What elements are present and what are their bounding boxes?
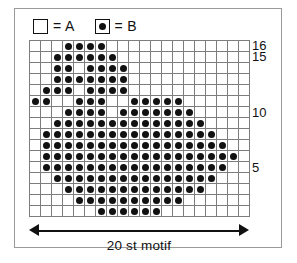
chart-cell-b [118,151,129,162]
chart-cell-b [195,184,206,195]
chart-cell-a [30,63,41,74]
chart-cell-a [206,107,217,118]
dot-icon [76,43,83,50]
chart-cell-a [63,96,74,107]
chart-cell-a [30,151,41,162]
chart-cell-b [173,129,184,140]
chart-cell-a [228,206,239,217]
dot-icon [175,131,182,138]
chart-row [30,173,250,184]
dot-icon [65,109,72,116]
chart-cell-b [52,63,63,74]
dot-icon [120,120,127,127]
chart-cell-a [184,195,195,206]
chart-cell-a [195,206,206,217]
dot-icon [98,87,105,94]
chart-cell-a [228,96,239,107]
chart-cell-b [41,96,52,107]
chart-cell-a [140,63,151,74]
chart-cell-b [63,41,74,52]
dot-icon [43,164,50,171]
chart-cell-b [30,96,41,107]
chart-cell-a [52,195,63,206]
dot-icon [131,109,138,116]
row-number-15: 15 [252,51,266,62]
chart-cell-b [63,162,74,173]
chart-cell-a [63,206,74,217]
chart-cell-a [151,41,162,52]
chart-cell-b [96,85,107,96]
dot-icon [153,164,160,171]
dot-icon [98,186,105,193]
dot-icon [120,186,127,193]
chart-cell-a [85,206,96,217]
chart-cell-a [30,140,41,151]
chart-cell-b [52,173,63,184]
chart-cell-b [118,195,129,206]
chart-cell-b [96,118,107,129]
chart-cell-a [228,162,239,173]
chart-cell-b [129,184,140,195]
chart-cell-b [140,140,151,151]
dot-icon [76,197,83,204]
dot-icon [76,142,83,149]
dot-icon [76,131,83,138]
chart-cell-b [74,107,85,118]
dot-icon [153,142,160,149]
chart-cell-a [239,129,250,140]
dot-icon [43,142,50,149]
chart-cell-b [96,140,107,151]
chart-cell-a [162,74,173,85]
chart-cell-a [217,74,228,85]
chart-row [30,52,250,63]
chart-cell-a [41,107,52,118]
chart-cell-b [118,74,129,85]
chart-cell-a [206,206,217,217]
chart-cell-a [107,96,118,107]
chart-cell-b [63,151,74,162]
chart-cell-a [184,41,195,52]
chart-cell-b [85,162,96,173]
chart-row [30,74,250,85]
dot-icon [131,186,138,193]
dot-icon [120,109,127,116]
chart-cell-a [239,74,250,85]
chart-cell-b [63,74,74,85]
chart-cell-b [129,96,140,107]
dot-icon [87,131,94,138]
chart-cell-b [162,151,173,162]
dot-icon [76,98,83,105]
chart-cell-a [195,41,206,52]
chart-cell-a [239,41,250,52]
dot-icon [87,43,94,50]
chart-cell-b [228,151,239,162]
chart-cell-b [140,129,151,140]
dot-icon [186,142,193,149]
chart-cell-a [30,195,41,206]
chart-cell-b [118,173,129,184]
chart-cell-b [118,107,129,118]
chart-cell-b [129,129,140,140]
legend-label-b: = B [115,19,137,33]
dot-icon [87,153,94,160]
chart-row [30,151,250,162]
chart-cell-b [74,173,85,184]
chart-cell-a [228,107,239,118]
dot-icon [120,175,127,182]
chart-cell-a [30,162,41,173]
dot-icon [208,175,215,182]
dot-icon [197,164,204,171]
chart-cell-a [195,85,206,96]
chart-cell-a [30,184,41,195]
chart-cell-b [107,162,118,173]
chart-cell-a [118,96,129,107]
chart-cell-b [41,151,52,162]
chart-cell-b [96,74,107,85]
chart-grid [29,40,250,217]
dot-icon [175,164,182,171]
dot-icon [164,175,171,182]
chart-cell-a [173,63,184,74]
chart-cell-b [151,195,162,206]
chart-cell-a [140,74,151,85]
chart-cell-b [162,184,173,195]
